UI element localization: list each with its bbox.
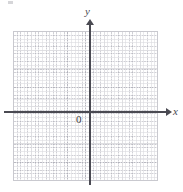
x-axis-label: x bbox=[173, 106, 178, 117]
coordinate-plane-figure: y x 0 bbox=[0, 0, 183, 192]
x-axis-line bbox=[4, 111, 168, 113]
right-arrow-icon bbox=[166, 108, 172, 116]
y-axis-line bbox=[89, 22, 91, 185]
grid-background bbox=[13, 31, 158, 181]
corner-artifact bbox=[8, 1, 13, 4]
up-arrow-icon bbox=[86, 19, 94, 25]
y-axis-label: y bbox=[85, 6, 90, 17]
origin-label: 0 bbox=[76, 114, 82, 125]
